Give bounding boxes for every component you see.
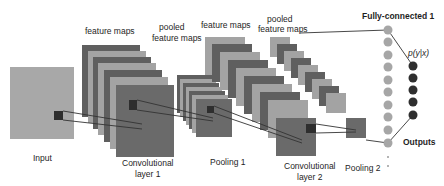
label-conv1-line1: Convolutional: [122, 158, 174, 169]
fully-connected-neurons: [384, 26, 393, 148]
output-neurons: [409, 62, 418, 120]
label-pool1: Pooling 1: [210, 157, 245, 168]
label-feature-maps-2: feature maps: [201, 20, 251, 31]
label-pool2: Pooling 2: [345, 163, 380, 174]
label-conv1: Convolutional layer 1: [122, 158, 174, 180]
label-pooled-1-line2: feature maps: [152, 33, 202, 44]
conv1-feature-maps: [82, 45, 174, 157]
conv1-kernel: [129, 100, 137, 110]
label-conv2-line1: Convolutional: [284, 161, 336, 172]
label-fully-connected: Fully-connected 1: [362, 11, 434, 22]
label-pooled-2-line2: feature maps: [258, 24, 308, 35]
input-image: [10, 67, 74, 139]
input-kernel: [54, 111, 63, 120]
label-pooled-1-line1: pooled: [159, 22, 185, 33]
ellipsis-dots: [387, 156, 389, 167]
label-input: Input: [33, 153, 52, 164]
label-feature-maps-1: feature maps: [85, 26, 135, 37]
label-conv2: Convolutional layer 2: [284, 161, 336, 183]
label-conv1-line2: layer 1: [122, 169, 174, 180]
label-probability: p(y|x): [408, 48, 429, 59]
pool1-kernel: [207, 106, 214, 113]
label-outputs: Outputs: [403, 137, 436, 148]
label-conv2-line2: layer 2: [284, 172, 336, 183]
conv2-kernel: [306, 124, 316, 133]
